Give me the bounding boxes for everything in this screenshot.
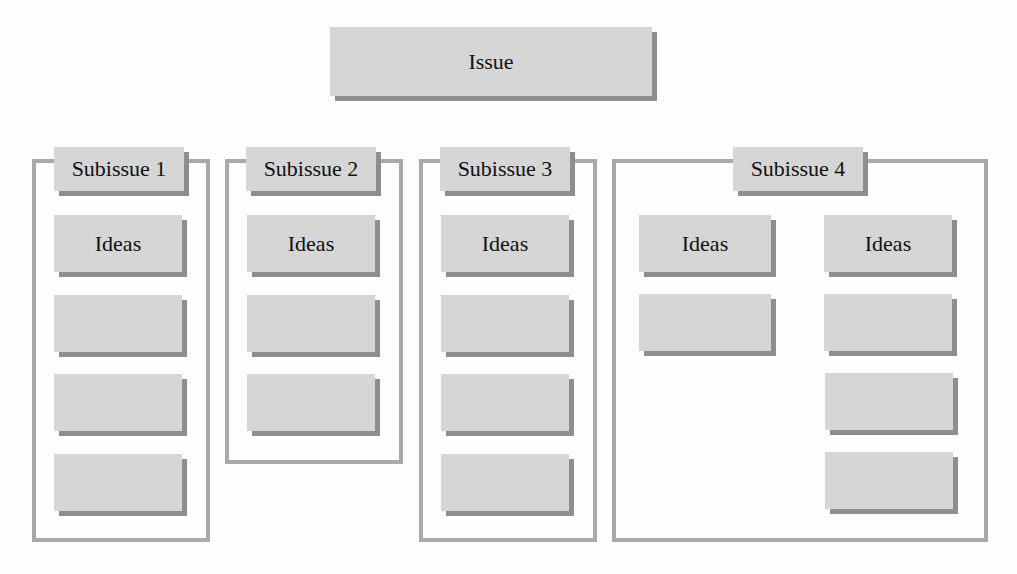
subissue-2-idea-box-3 [247,374,375,431]
issue-box: Issue [330,27,652,96]
subissue-2-idea-box-2 [247,295,375,352]
idea-label: Ideas [95,231,141,257]
subissue-4-col-1-idea-box-2 [639,294,771,351]
subissue-3-label-box: Subissue 3 [440,147,570,191]
subissue-4-col-2-idea-box-1: Ideas [824,215,952,272]
subissue-2-label: Subissue 2 [264,156,359,182]
issue-label: Issue [468,49,513,75]
subissue-1-idea-box-1: Ideas [54,215,182,272]
subissue-1-idea-box-4 [54,454,182,511]
subissue-3-label: Subissue 3 [458,156,553,182]
subissue-3-idea-box-4 [441,454,569,511]
subissue-2-label-box: Subissue 2 [246,147,376,191]
subissue-4-col-1-idea-box-1: Ideas [639,215,771,272]
subissue-3-idea-box-2 [441,295,569,352]
subissue-4-col-2-idea-box-3 [825,373,953,430]
idea-label: Ideas [865,231,911,257]
subissue-2-idea-box-1: Ideas [247,215,375,272]
idea-label: Ideas [682,231,728,257]
subissue-1-idea-box-2 [54,295,182,352]
subissue-4-label-box: Subissue 4 [733,147,863,191]
subissue-4-col-2-idea-box-4 [825,452,953,509]
subissue-1-label: Subissue 1 [72,156,167,182]
subissue-4-label: Subissue 4 [751,156,846,182]
idea-label: Ideas [482,231,528,257]
subissue-3-idea-box-3 [441,374,569,431]
subissue-1-idea-box-3 [54,374,182,431]
subissue-4-col-2-idea-box-2 [824,294,952,351]
subissue-1-label-box: Subissue 1 [54,147,184,191]
subissue-3-idea-box-1: Ideas [441,215,569,272]
idea-label: Ideas [288,231,334,257]
